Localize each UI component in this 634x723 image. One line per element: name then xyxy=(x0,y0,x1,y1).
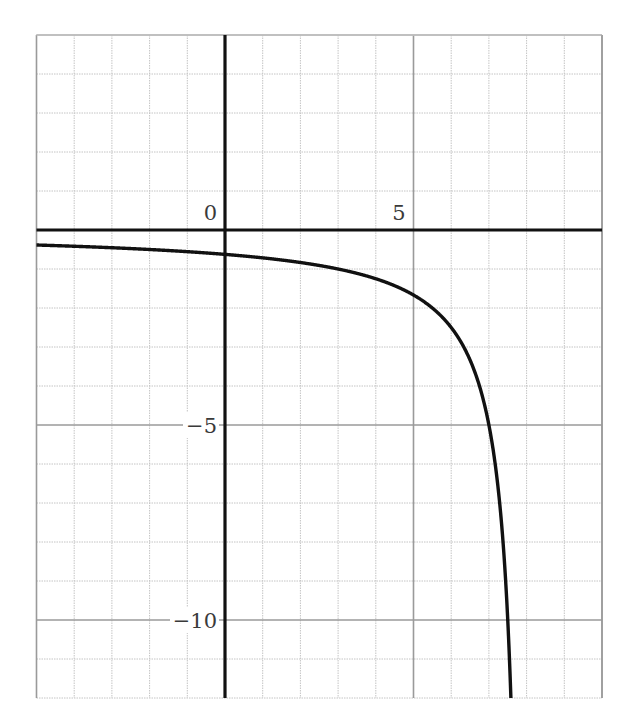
function-curve xyxy=(37,245,511,698)
function-plot: 05−5−10 xyxy=(0,0,634,723)
y-tick-label: −5 xyxy=(186,414,217,438)
minor-grid xyxy=(37,35,603,698)
major-grid xyxy=(37,35,603,698)
curve-layer xyxy=(37,245,511,698)
axes xyxy=(37,35,603,698)
x-tick-label: 0 xyxy=(204,201,217,225)
tick-labels: 05−5−10 xyxy=(170,201,406,633)
y-tick-label: −10 xyxy=(173,609,217,633)
x-tick-label: 5 xyxy=(392,201,405,225)
plot-frame xyxy=(37,35,603,698)
